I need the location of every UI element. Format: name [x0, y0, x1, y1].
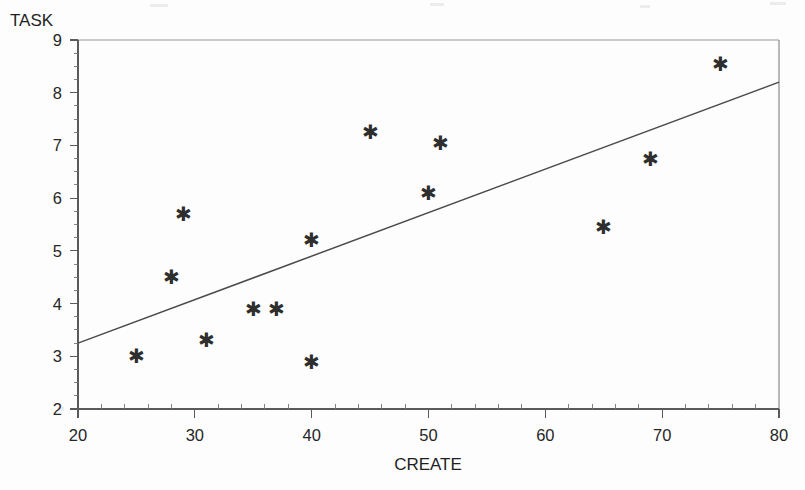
data-point: ✱ — [128, 345, 145, 367]
x-axis-minor-ticks — [101, 404, 755, 409]
x-tick-label-80: 80 — [770, 426, 788, 444]
data-point: ✱ — [303, 229, 320, 251]
data-point: ✱ — [712, 53, 729, 75]
y-tick-label-8: 8 — [53, 84, 62, 102]
x-tick-label-40: 40 — [302, 426, 320, 444]
data-point: ✱ — [362, 121, 379, 143]
x-tick-label-70: 70 — [653, 426, 671, 444]
data-point: ✱ — [420, 182, 437, 204]
x-tick-label-30: 30 — [186, 426, 204, 444]
x-tick-label-50: 50 — [419, 426, 437, 444]
y-axis-title: TASK — [10, 11, 54, 30]
data-point: ✱ — [163, 266, 180, 288]
data-point: ✱ — [175, 203, 192, 225]
x-axis-major-ticks — [78, 409, 779, 418]
y-tick-label-7: 7 — [53, 136, 62, 154]
y-tick-label-5: 5 — [53, 242, 62, 260]
y-axis-tick-labels: 23456789 — [53, 31, 62, 418]
y-tick-label-4: 4 — [53, 295, 62, 313]
x-tick-label-20: 20 — [69, 426, 87, 444]
y-tick-label-3: 3 — [53, 347, 62, 365]
data-point: ✱ — [303, 351, 320, 373]
plot-canvas: 23456789 20304050607080 TASK CREATE ✱✱✱✱… — [0, 0, 805, 490]
x-axis-tick-labels: 20304050607080 — [69, 426, 788, 444]
data-point: ✱ — [198, 329, 215, 351]
x-axis-title: CREATE — [394, 455, 462, 474]
y-tick-label-2: 2 — [53, 400, 62, 418]
data-point: ✱ — [268, 298, 285, 320]
y-axis-minor-ticks — [74, 53, 78, 396]
x-tick-label-60: 60 — [536, 426, 554, 444]
data-point: ✱ — [245, 298, 262, 320]
data-point: ✱ — [595, 216, 612, 238]
data-point: ✱ — [642, 148, 659, 170]
scatter-plot-figure: 23456789 20304050607080 TASK CREATE ✱✱✱✱… — [0, 0, 805, 490]
scan-artifacts — [58, 2, 786, 411]
y-tick-label-9: 9 — [53, 31, 62, 49]
y-tick-label-6: 6 — [53, 189, 62, 207]
data-point: ✱ — [432, 132, 449, 154]
